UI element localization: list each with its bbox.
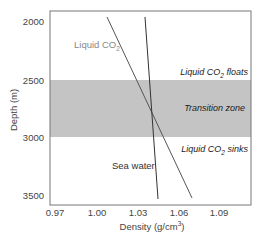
y-tick-3500: 3500 — [23, 190, 44, 201]
x-tick-1.06: 1.06 — [170, 207, 189, 218]
x-tick-1.09: 1.09 — [210, 207, 229, 218]
liquid-co2-label: Liquid CO2 — [74, 39, 120, 52]
y-tick-2000: 2000 — [23, 16, 44, 27]
x-axis-label: Density (g/cm3) — [120, 220, 185, 232]
y-axis-label: Depth (m) — [8, 89, 19, 131]
y-tick-3000: 3000 — [23, 132, 44, 143]
x-tick-1.00: 1.00 — [88, 207, 107, 218]
annotation-sinks: Liquid CO2 sinks — [181, 144, 248, 156]
depth-density-chart: 2000 2500 3000 3500 0.97 1.00 1.03 1.06 … — [0, 0, 262, 239]
annotation-transition-zone: Transition zone — [184, 103, 245, 113]
sea-water-label: Sea water — [112, 160, 155, 171]
x-tick-0.97: 0.97 — [46, 207, 65, 218]
x-tick-1.03: 1.03 — [129, 207, 148, 218]
y-tick-2500: 2500 — [23, 75, 44, 86]
annotation-floats: Liquid CO2 floats — [180, 67, 248, 79]
